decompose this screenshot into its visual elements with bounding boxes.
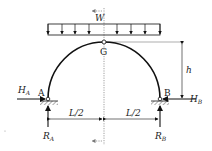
support-a [40, 97, 58, 105]
height-label: h [186, 65, 192, 75]
h-b-label: HB [189, 94, 203, 105]
r-a-label: RA [42, 131, 55, 142]
stray-dot [4, 130, 5, 131]
height-dimension [106, 42, 184, 98]
support-b-label: B [164, 88, 171, 98]
crown-label: G [100, 47, 107, 57]
h-a-label: HA [17, 85, 31, 96]
arch-diagram: W h G A B HA HB RA [0, 0, 212, 151]
symmetry-axis [92, 8, 104, 145]
support-b [151, 97, 169, 105]
support-a-label: A [37, 88, 45, 98]
load-label: W [95, 13, 105, 23]
r-b-label: RB [154, 131, 167, 142]
half-span-right-label: L/2 [125, 108, 141, 118]
crown-hinge [102, 40, 106, 44]
half-span-left-label: L/2 [68, 108, 84, 118]
